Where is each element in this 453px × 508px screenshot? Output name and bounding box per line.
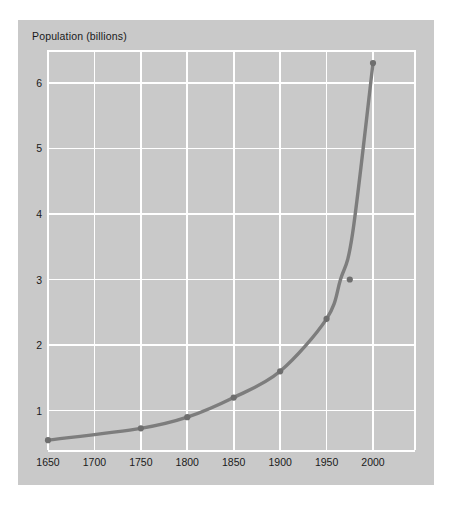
data-point-marker xyxy=(323,316,329,322)
data-point-marker xyxy=(184,414,190,420)
x-tick-label: 1900 xyxy=(260,456,300,468)
x-tick-label: 1800 xyxy=(167,456,207,468)
x-tick-label: 2000 xyxy=(353,456,393,468)
chart-panel: Population (billions) 123456 16501700175… xyxy=(18,20,434,485)
data-series-svg xyxy=(48,50,373,450)
x-tick-label: 1750 xyxy=(121,456,161,468)
data-point-marker xyxy=(370,60,376,66)
plot-right-edge xyxy=(414,50,416,450)
figure-root: Population (billions) 123456 16501700175… xyxy=(0,0,453,508)
x-tick-label: 1700 xyxy=(74,456,114,468)
data-point-marker xyxy=(231,394,237,400)
plot-bottom-edge xyxy=(48,450,415,452)
data-point-marker xyxy=(347,276,353,282)
y-axis-title: Population (billions) xyxy=(32,30,127,42)
plot-area xyxy=(48,50,373,450)
y-tick-label: 2 xyxy=(18,339,42,351)
y-tick-label: 3 xyxy=(18,274,42,286)
x-tick-label: 1650 xyxy=(28,456,68,468)
data-point-marker xyxy=(45,437,51,443)
data-point-marker xyxy=(277,368,283,374)
x-tick-label: 1950 xyxy=(307,456,347,468)
y-tick-label: 6 xyxy=(18,77,42,89)
data-point-marker xyxy=(138,425,144,431)
x-tick-label: 1850 xyxy=(214,456,254,468)
population-curve xyxy=(48,63,373,440)
y-tick-label: 4 xyxy=(18,208,42,220)
y-tick-label: 1 xyxy=(18,405,42,417)
y-tick-label: 5 xyxy=(18,142,42,154)
